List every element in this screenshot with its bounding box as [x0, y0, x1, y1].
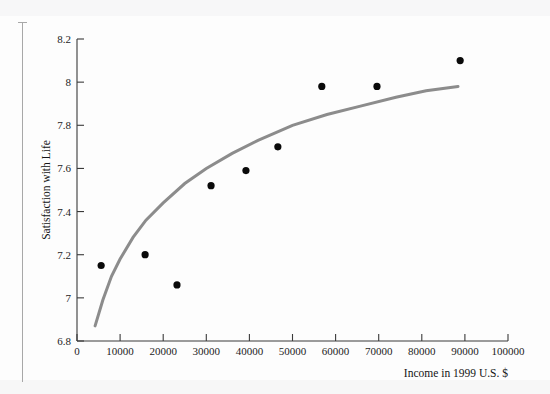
scatter-plot: 6.877.27.47.67.888.2 0100002000030000400… [0, 0, 550, 394]
y-tick-label: 7.6 [57, 162, 71, 174]
y-tick-label: 6.8 [57, 335, 71, 347]
figure-canvas: 6.877.27.47.67.888.2 0100002000030000400… [0, 0, 550, 394]
x-tick-label: 100000 [492, 345, 526, 357]
x-tick-label: 80000 [408, 345, 436, 357]
data-point [318, 83, 325, 90]
x-tick-label: 0 [74, 345, 80, 357]
y-tick-label: 7 [66, 292, 72, 304]
y-tick-label: 7.8 [57, 119, 71, 131]
x-tick-label: 20000 [149, 345, 177, 357]
data-point [98, 262, 105, 269]
x-tick-label: 10000 [106, 345, 134, 357]
data-point [207, 182, 214, 189]
x-tick-label: 90000 [451, 345, 479, 357]
data-point [274, 143, 281, 150]
x-tick-group: 0100002000030000400005000060000700008000… [74, 334, 525, 357]
fit-curve [95, 86, 458, 325]
data-point [457, 57, 464, 64]
data-point [373, 83, 380, 90]
data-point [173, 281, 180, 288]
x-tick-label: 50000 [279, 345, 307, 357]
y-tick-group: 6.877.27.47.67.888.2 [57, 33, 84, 347]
y-tick-label: 7.4 [57, 206, 71, 218]
data-point [142, 251, 149, 258]
x-axis-title: Income in 1999 U.S. $ [404, 367, 508, 379]
y-tick-label: 7.2 [57, 249, 71, 261]
data-point-group [98, 57, 464, 289]
fit-curve-group [95, 86, 458, 325]
x-tick-label: 30000 [193, 345, 221, 357]
x-tick-label: 70000 [365, 345, 393, 357]
y-axis-title: Satisfaction with Life [40, 140, 52, 240]
data-point [242, 167, 249, 174]
x-tick-label: 60000 [322, 345, 350, 357]
y-tick-label: 8.2 [57, 33, 71, 45]
x-axis: 0100002000030000400005000060000700008000… [74, 334, 525, 357]
y-tick-label: 8 [66, 76, 72, 88]
y-axis: 6.877.27.47.67.888.2 [57, 33, 84, 347]
x-tick-label: 40000 [236, 345, 264, 357]
